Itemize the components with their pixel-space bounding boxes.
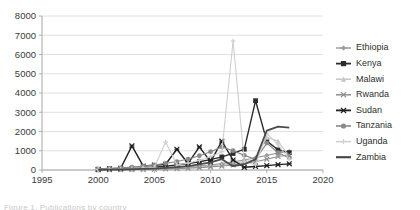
legend-item-ethiopia[interactable]: Ethiopia [336,42,389,52]
y-tick-label: 6000 [15,49,36,60]
chart-legend: EthiopiaKenyaMalawiRwandaSudanTanzaniaUg… [336,42,392,161]
legend-item-rwanda[interactable]: Rwanda [336,89,389,99]
legend-item-kenya[interactable]: Kenya [336,58,382,68]
legend-label: Uganda [356,136,388,146]
x-tick-label: 2005 [144,174,165,185]
legend-label: Ethiopia [356,42,389,52]
x-tick-label: 1995 [31,174,52,185]
x-tick-label: 2000 [88,174,109,185]
y-tick-label: 7000 [15,30,36,41]
y-tick-label: 5000 [15,68,36,79]
legend-label: Tanzania [356,120,392,130]
y-tick-label: 1000 [15,145,36,156]
legend-label: Kenya [356,58,382,68]
legend-label: Zambia [356,152,386,162]
gridlines [42,16,323,170]
series-uganda [96,39,292,172]
legend-label: Malawi [356,74,384,84]
figure-caption: Figure 1. Publications by country [4,203,127,210]
legend-label: Rwanda [356,89,389,99]
y-tick-label: 3000 [15,107,36,118]
x-tick-label: 2015 [256,174,277,185]
legend-label: Sudan [356,105,382,115]
line-chart: 010002000300040005000600070008000 199520… [0,0,420,210]
legend-item-zambia[interactable]: Zambia [336,152,386,162]
data-series-group [96,39,292,173]
x-tick-label: 2020 [312,174,333,185]
legend-item-sudan[interactable]: Sudan [336,105,382,115]
y-axis-tick-labels: 010002000300040005000600070008000 [15,10,42,175]
legend-item-uganda[interactable]: Uganda [336,136,388,146]
series-zambia [98,127,289,170]
y-tick-label: 2000 [15,126,36,137]
x-axis-tick-labels: 199520002005201020152020 [31,170,333,185]
x-tick-label: 2010 [200,174,221,185]
y-tick-label: 4000 [15,87,36,98]
y-tick-label: 8000 [15,10,36,21]
legend-item-malawi[interactable]: Malawi [336,74,384,84]
legend-item-tanzania[interactable]: Tanzania [336,120,392,130]
chart-figure: 010002000300040005000600070008000 199520… [0,0,420,210]
